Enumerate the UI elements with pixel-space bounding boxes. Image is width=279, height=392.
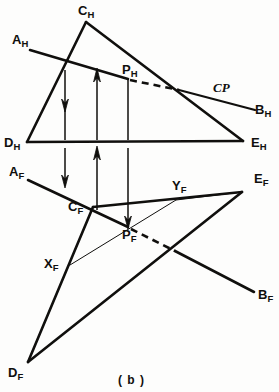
figure-linework [0, 0, 279, 392]
label-b-h: BH [255, 101, 271, 119]
line-ph-hidden-dashed [130, 80, 179, 90]
interview-projectors-group [62, 146, 132, 229]
label-b-f: BF [258, 286, 273, 304]
line-pf-hidden-dashed [131, 229, 175, 251]
line-bf-visible [175, 251, 254, 292]
projector-line-2-front [94, 146, 101, 210]
label-c-f: CF [68, 198, 83, 216]
projector-line-3-front [125, 148, 132, 229]
edge-dh-ch [27, 22, 86, 142]
edge-df-ef [28, 192, 242, 362]
edge-dh-eh-baseline [27, 141, 243, 142]
edge-df-cf [28, 207, 93, 362]
label-d-h: DH [4, 134, 20, 152]
projector-line-2-top [94, 68, 101, 140]
label-cp: CP [213, 81, 230, 94]
label-x-f: XF [44, 255, 59, 273]
label-a-f: AF [9, 163, 24, 181]
label-d-f: DF [8, 364, 23, 382]
label-e-f: EF [254, 170, 269, 188]
projector-line-1-front [62, 148, 69, 188]
label-p-f: PF [122, 226, 137, 244]
projector-line-1-top [62, 70, 69, 140]
descriptive-geometry-figure: CH AH PH CP BH DH EH AF CF YF EF PF XF B… [0, 0, 279, 392]
label-a-h: AH [12, 31, 28, 49]
line-ah-ph-visible [30, 50, 128, 79]
front-view-group [28, 180, 254, 362]
label-p-h: PH [122, 61, 138, 79]
label-e-h: EH [251, 134, 267, 152]
figure-caption: ( b ) [118, 374, 145, 386]
label-c-h: CH [78, 2, 94, 20]
label-y-f: YF [172, 177, 187, 195]
